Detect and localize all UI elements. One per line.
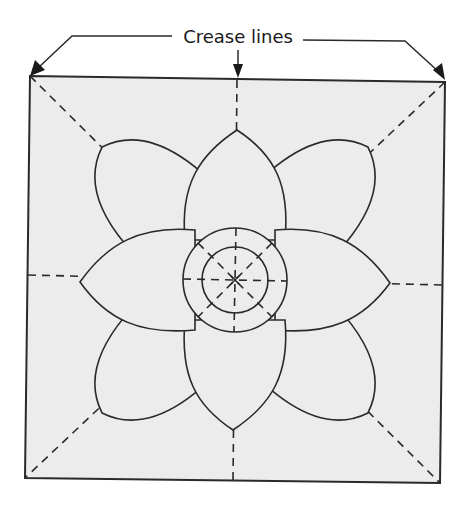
arrow-top-left-corner-icon [30, 60, 45, 76]
crease-lines-label: Crease lines [183, 26, 293, 47]
leader-right [303, 40, 440, 73]
arrow-top-center-icon [233, 64, 243, 78]
leader-left [38, 36, 172, 68]
arrow-top-right-corner-icon [433, 63, 445, 80]
crease-lines-diagram: Crease lines [0, 0, 457, 505]
